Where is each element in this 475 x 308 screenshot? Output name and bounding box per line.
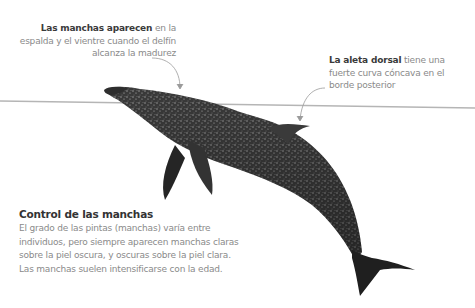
annotation-spots: Las manchas aparecen en la espalda y el … xyxy=(18,22,176,60)
annotation-dorsal-bold: La aleta dorsal xyxy=(329,55,401,65)
tail-fluke xyxy=(352,250,415,296)
annotation-spots-bold: Las manchas aparecen xyxy=(41,23,152,33)
panel-body: El grado de las pintas (manchas) varía e… xyxy=(19,222,244,276)
panel-title: Control de las manchas xyxy=(19,207,244,221)
leader-line-dorsal xyxy=(297,88,325,121)
illustration-page: Las manchas aparecen en la espalda y el … xyxy=(0,0,475,308)
pectoral-fin-left xyxy=(163,145,185,200)
waterline xyxy=(0,101,475,108)
spots-info-panel: Control de las manchas El grado de las p… xyxy=(19,207,244,276)
leader-line-spots xyxy=(152,58,183,89)
annotation-dorsal-fin: La aleta dorsal tiene una fuerte curva c… xyxy=(329,54,469,92)
